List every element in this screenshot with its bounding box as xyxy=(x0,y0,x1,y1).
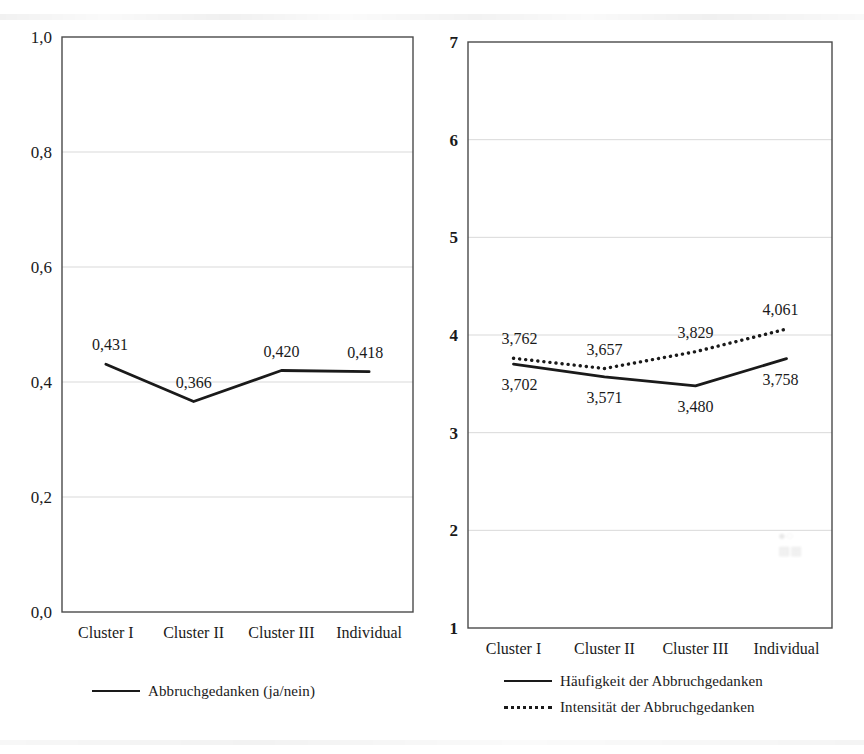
data-point-label: 3,829 xyxy=(678,324,714,341)
chart-panel-left: 1,00,80,60,40,20,0Cluster ICluster IIClu… xyxy=(0,0,432,754)
y-axis-tick-label: 0,6 xyxy=(31,258,52,277)
y-axis-tick-label: 1,0 xyxy=(31,28,52,47)
legend-item-label: Abbruchgedanken (ja/nein) xyxy=(148,683,315,700)
legend-line-dotted-icon xyxy=(504,701,552,713)
plot-area-border xyxy=(62,37,413,612)
x-axis-category-label: Individual xyxy=(754,640,820,657)
x-axis-category-label: Cluster III xyxy=(248,624,314,641)
data-point-label: 3,762 xyxy=(502,330,538,347)
data-point-label: 3,480 xyxy=(678,398,714,415)
x-axis-category-label: Individual xyxy=(336,624,402,641)
legend-item: Intensität der Abbruchgedanken xyxy=(504,694,864,720)
legend-item-label: Intensität der Abbruchgedanken xyxy=(560,699,755,716)
line-chart-left: 1,00,80,60,40,20,0Cluster ICluster IIClu… xyxy=(0,0,432,660)
figure-page: 1,00,80,60,40,20,0Cluster ICluster IIClu… xyxy=(0,0,864,754)
series-line-solid xyxy=(106,364,369,401)
legend-item: Häufigkeit der Abbruchgedanken xyxy=(504,668,864,694)
chart-panel-right: 7654321Cluster ICluster IICluster IIIInd… xyxy=(432,0,864,754)
data-point-label: 3,657 xyxy=(587,341,623,358)
y-axis-tick-label: 1 xyxy=(450,619,459,638)
y-axis-tick-label: 0,8 xyxy=(31,143,52,162)
data-point-label: 3,758 xyxy=(763,371,799,388)
data-point-label: 4,061 xyxy=(763,301,799,318)
y-axis-tick-label: 3 xyxy=(450,424,459,443)
y-axis-tick-label: 5 xyxy=(450,228,459,247)
x-axis-category-label: Cluster I xyxy=(78,624,134,641)
x-axis-category-label: Cluster II xyxy=(163,624,224,641)
data-point-label: 0,431 xyxy=(92,336,128,353)
data-point-label: 3,571 xyxy=(587,389,623,406)
y-axis-tick-label: 0,2 xyxy=(31,488,52,507)
y-axis-tick-label: 4 xyxy=(450,326,459,345)
y-axis-tick-label: 0,4 xyxy=(31,373,53,392)
data-point-label: 3,702 xyxy=(502,376,538,393)
x-axis-category-label: Cluster I xyxy=(486,640,542,657)
legend-item-label: Häufigkeit der Abbruchgedanken xyxy=(560,673,763,690)
line-chart-right: 7654321Cluster ICluster IICluster IIIInd… xyxy=(432,0,864,660)
y-axis-tick-label: 0,0 xyxy=(31,603,52,622)
chart-legend-right: Häufigkeit der Abbruchgedanken Intensitä… xyxy=(432,668,864,720)
data-point-label: 0,420 xyxy=(263,343,299,360)
data-point-label: 0,418 xyxy=(347,344,383,361)
data-point-label: 0,366 xyxy=(176,374,212,391)
legend-line-solid-icon xyxy=(504,675,552,687)
y-axis-tick-label: 7 xyxy=(450,33,459,52)
legend-line-solid-icon xyxy=(92,685,140,697)
x-axis-category-label: Cluster III xyxy=(662,640,728,657)
y-axis-tick-label: 6 xyxy=(450,131,459,150)
y-axis-tick-label: 2 xyxy=(450,521,459,540)
x-axis-category-label: Cluster II xyxy=(574,640,635,657)
